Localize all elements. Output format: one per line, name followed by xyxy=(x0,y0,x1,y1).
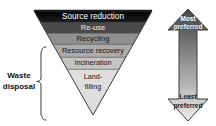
brace-label-line2: disposal xyxy=(3,82,35,91)
arrow-label-least-line2: preferred xyxy=(174,102,203,110)
band-label-incineration: Incineration xyxy=(74,58,111,67)
arrow-label-most-line2: preferred xyxy=(174,23,203,31)
band-label-resource-recovery: Resource recovery xyxy=(62,46,124,55)
band-label-source-reduction: Source reduction xyxy=(62,12,124,21)
band-label-recycling: Recycling xyxy=(77,34,110,43)
band-label-landfilling-line2: filling xyxy=(85,82,101,91)
band-label-landfilling-line1: Land- xyxy=(84,72,103,81)
band-label-re-use: Re-use xyxy=(81,23,105,32)
waste-disposal-brace xyxy=(37,47,47,120)
arrow-label-least-line1: Least xyxy=(179,93,197,100)
arrow-label-most-line1: Most xyxy=(180,15,196,22)
diagram-canvas: Source reduction Re-use Recycling Resour… xyxy=(0,0,216,126)
waste-hierarchy-diagram: Source reduction Re-use Recycling Resour… xyxy=(0,0,216,126)
brace-label-line1: Waste xyxy=(7,71,31,80)
